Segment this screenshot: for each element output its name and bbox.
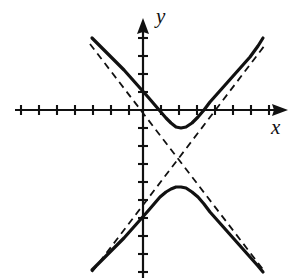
- hyperbola-lower-branch: [92, 187, 263, 272]
- hyperbola-upper-branch: [92, 38, 263, 128]
- y-axis-label: y: [156, 6, 165, 27]
- x-axis-label: x: [271, 117, 280, 138]
- y-axis-arrowhead: [137, 18, 149, 34]
- hyperbola-figure: y x: [0, 0, 300, 280]
- plot-canvas: [0, 0, 300, 280]
